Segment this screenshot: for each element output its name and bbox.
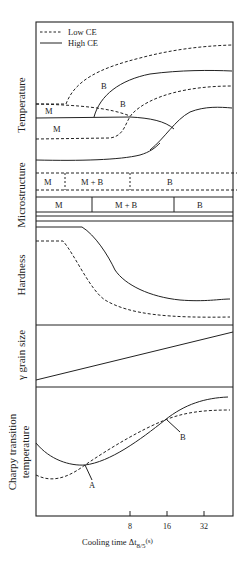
ylabel-charpy-2: temperature xyxy=(19,426,31,479)
micro-high-zone-2: M + B xyxy=(115,200,138,210)
temp-label-m1: M xyxy=(45,106,53,116)
microstructure-bands xyxy=(36,173,237,221)
micro-low-zone-2: M + B xyxy=(81,177,104,187)
hardness-curves xyxy=(36,227,233,325)
charpy-curves xyxy=(36,397,230,480)
plot-frame xyxy=(36,22,233,516)
charpy-point-a: A xyxy=(89,480,96,490)
charpy-point-b: B xyxy=(180,432,186,442)
ylabel-grain-size: γ grain size xyxy=(15,330,27,381)
ylabel-temperature: Temperature xyxy=(15,77,27,133)
x-tick-16: 16 xyxy=(163,522,171,531)
ylabel-hardness: Hardness xyxy=(15,255,27,296)
legend: Low CE High CE xyxy=(40,27,98,48)
legend-low-ce: Low CE xyxy=(68,27,97,37)
x-axis-label: Cooling time Δt8/5(s) xyxy=(82,537,154,550)
micro-low-zone-1: M xyxy=(44,177,52,187)
ylabel-microstructure: Microstructure xyxy=(15,162,27,227)
temperature-curves xyxy=(36,45,232,160)
micro-high-zone-1: M xyxy=(55,200,63,210)
x-ticks xyxy=(130,511,204,516)
ylabel-charpy-1: Charpy transition xyxy=(6,413,18,490)
grain-size-curve xyxy=(36,332,233,387)
legend-high-ce: High CE xyxy=(68,38,98,48)
micro-high-zone-3: B xyxy=(197,200,203,210)
x-tick-32: 32 xyxy=(200,522,208,531)
x-tick-8: 8 xyxy=(128,522,132,531)
temp-label-b1: B xyxy=(101,81,107,91)
temp-label-m2: M xyxy=(53,124,61,134)
figure: Low CE High CE B B M M M M + B B M M + B… xyxy=(0,0,247,567)
temp-label-b2: B xyxy=(120,99,126,109)
micro-low-zone-3: B xyxy=(167,177,173,187)
